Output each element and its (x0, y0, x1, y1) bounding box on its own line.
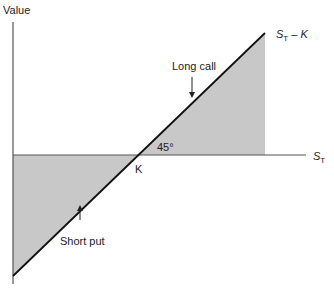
long-call-arrowhead-icon (189, 92, 195, 98)
short-put-label: Short put (60, 235, 105, 247)
payoff-diagram: Value ST – K Long call Short put 45° K S… (0, 0, 334, 291)
angle-label: 45° (157, 141, 174, 153)
long-call-label: Long call (172, 60, 216, 72)
payoff-line-label: ST – K (276, 28, 308, 43)
x-axis-label: ST (313, 150, 325, 165)
strike-label: K (135, 163, 143, 175)
y-axis-label: Value (3, 4, 30, 16)
